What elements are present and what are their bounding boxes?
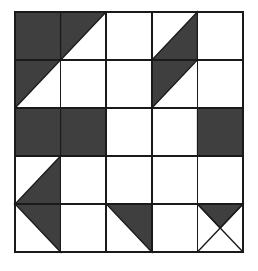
cell-r1c1-dark-square-fill <box>15 12 61 60</box>
cell-r3c2-dark-square-fill <box>61 108 107 156</box>
cell-r4c3-blank-background <box>106 156 152 204</box>
cell-r5c2-blank-background <box>61 204 107 252</box>
cell-r2c5-blank-background <box>197 60 243 108</box>
cell-r3c5-dark-square-fill <box>197 108 243 156</box>
cell-r2c3-blank-background <box>106 60 152 108</box>
cell-r3c1-dark-square-fill <box>15 108 61 156</box>
cell-r4c2-blank-background <box>61 156 107 204</box>
cell-r2c2-blank-background <box>61 60 107 108</box>
cell-r3c3-blank-background <box>106 108 152 156</box>
cell-r1c5-blank-background <box>197 12 243 60</box>
quilt-block-canvas <box>0 0 258 271</box>
cell-r4c5-blank-background <box>197 156 243 204</box>
quilt-block-figure <box>0 0 258 271</box>
cell-r3c4-blank-background <box>152 108 198 156</box>
cell-r4c4-blank-background <box>152 156 198 204</box>
cell-r1c3-blank-background <box>106 12 152 60</box>
quilt-cell-layer <box>15 12 243 252</box>
cell-r5c4-blank-background <box>152 204 198 252</box>
